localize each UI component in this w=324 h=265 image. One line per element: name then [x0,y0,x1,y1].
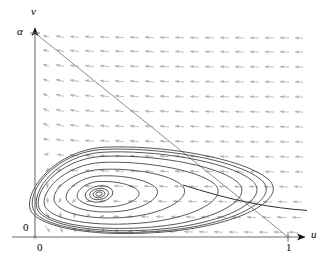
y-axis-label: v [31,6,36,17]
axes-group [12,28,305,242]
y-axis-alpha-tick-label: α [17,26,23,37]
phase-portrait-canvas [0,0,324,265]
phase-portrait-figure: v u α 1 0 0 [0,0,324,265]
nullcline-line [35,33,288,237]
closed-orbit-family [29,147,273,234]
x-axis-one-tick-label: 1 [286,242,292,253]
separatrix-branch [183,185,307,210]
x-axis-origin-label: 0 [37,242,43,253]
x-axis-label: u [311,229,317,240]
y-axis-origin-label: 0 [23,222,29,233]
